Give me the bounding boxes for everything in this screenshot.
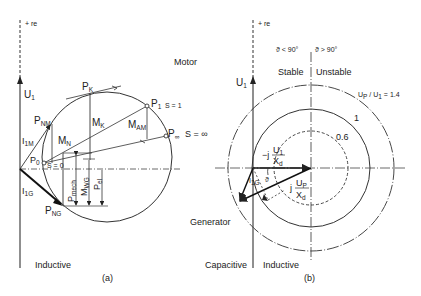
- panel-b: + re U1 ϑ < 90° ϑ > 90° Stable Unstable …: [190, 20, 407, 283]
- motor-label: Motor: [174, 57, 197, 67]
- caption-b: (b): [304, 273, 315, 283]
- u1-arrow-icon-b: [250, 76, 256, 84]
- pinf-slip-label: S = ∞: [185, 129, 208, 139]
- p1-point: [145, 104, 149, 108]
- mwg-label: MWG: [79, 177, 90, 196]
- pel-label: Pel: [92, 178, 103, 190]
- i1m-label: I1M: [22, 136, 34, 147]
- circle-diagrams-figure: + re U1 Motor PK P1 S = 1 P∞ S = ∞ MK MA…: [0, 0, 421, 296]
- capacitive-label: Capacitive: [205, 260, 247, 270]
- operating-circle: [42, 92, 172, 222]
- png-label: PNG: [45, 205, 61, 217]
- svg-text:−j: −j: [262, 150, 269, 160]
- ratio-label: UP / U1 = 1.4: [358, 91, 400, 100]
- svg-text:Xd: Xd: [296, 190, 306, 201]
- stable-label: Stable: [278, 67, 304, 77]
- svg-text:j: j: [289, 183, 292, 193]
- pnm-label: PNM: [34, 115, 51, 127]
- mam-label: MAM: [128, 119, 146, 131]
- svg-text:UP: UP: [296, 178, 307, 189]
- inductive-label-b: Inductive: [263, 260, 299, 270]
- generator-label: Generator: [190, 217, 231, 227]
- p0-label: P0: [30, 155, 40, 166]
- u1-label: U1: [24, 89, 35, 101]
- angle-lt-label: ϑ < 90°: [276, 46, 299, 53]
- pmech-label: Pmech: [66, 180, 77, 202]
- pk-label: PK: [82, 81, 94, 93]
- mn-label: MN: [58, 135, 71, 147]
- p0-point: [42, 161, 46, 165]
- mk-label: MK: [92, 117, 105, 129]
- angle-gt-label: ϑ > 90°: [315, 46, 338, 53]
- unstable-label: Unstable: [316, 67, 352, 77]
- u1-arrow-icon: [17, 76, 23, 84]
- caption-a: (a): [102, 273, 113, 283]
- theta-label: ϑ: [265, 176, 269, 183]
- i1g-vector: [20, 169, 61, 204]
- i1g-label: I1G: [22, 186, 33, 197]
- circle-06-label: 0.6: [336, 132, 349, 142]
- p1-label: P1: [151, 98, 162, 110]
- inductive-label-a: Inductive: [35, 260, 71, 270]
- i1g-label-b: I1G: [249, 177, 260, 186]
- circle-1-label: 1: [354, 113, 359, 123]
- p1-slip-label: S = 1: [165, 102, 182, 109]
- svg-text:Xd: Xd: [273, 156, 283, 167]
- u1-label-b: U1: [236, 77, 247, 89]
- up-xd-fraction: j UP Xd: [289, 178, 309, 201]
- panel-a: + re U1 Motor PK P1 S = 1 P∞ S = ∞ MK MA…: [17, 20, 208, 283]
- u1-xd-fraction: −j U1 Xd: [262, 145, 285, 167]
- re-axis-label: + re: [25, 20, 37, 27]
- re-axis-label-b: + re: [258, 20, 270, 27]
- p0-slip-label: S = 0: [47, 162, 64, 169]
- pinf-label: P∞: [168, 128, 180, 140]
- svg-text:U1: U1: [273, 145, 284, 156]
